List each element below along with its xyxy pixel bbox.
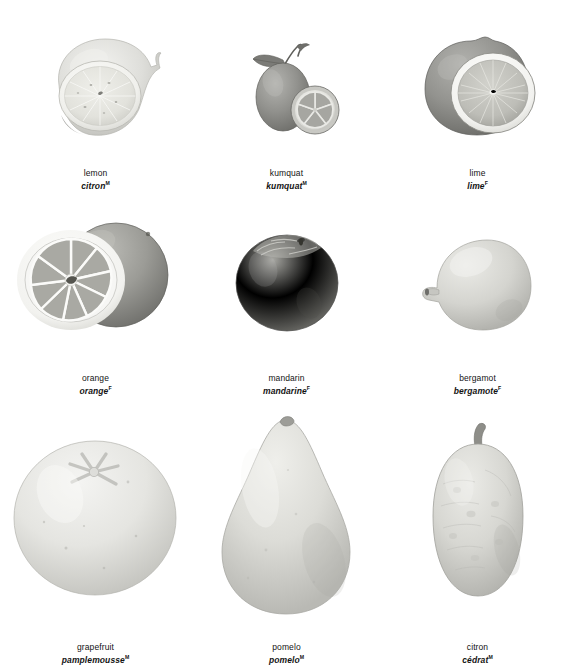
caption-kumquat-en: kumquat	[266, 168, 306, 179]
orange-illustration	[0, 193, 191, 369]
fruit-cell-orange: orange orangeF	[0, 193, 191, 398]
gender-marker: F	[498, 385, 501, 391]
gender-marker: F	[307, 385, 310, 391]
caption-citron-fr: cédratM	[462, 654, 492, 665]
caption-lemon: lemon citronM	[81, 164, 110, 191]
gender-marker: F	[108, 385, 111, 391]
fruit-cell-bergamot: bergamot bergamoteF	[382, 193, 573, 398]
orange-cut-half	[17, 230, 125, 330]
gender-marker: F	[485, 180, 488, 186]
caption-bergamot-fr: bergamoteF	[454, 385, 502, 396]
grapefruit-whole-shape	[14, 441, 176, 595]
citron-whole-shape	[433, 444, 525, 596]
caption-lime: lime limeF	[467, 164, 488, 191]
caption-orange-en: orange	[79, 373, 111, 384]
fruit-cell-grapefruit: grapefruit pamplemousseM	[0, 398, 191, 667]
bergamot-protrusion	[425, 289, 439, 296]
mandarin-illustration	[191, 193, 382, 369]
caption-lemon-fr: citronM	[81, 180, 110, 191]
grapefruit-illustration	[0, 398, 191, 638]
gender-marker: M	[105, 180, 109, 186]
pomelo-illustration	[191, 398, 382, 638]
lime-illustration	[382, 8, 573, 164]
caption-mandarin-en: mandarin	[263, 373, 310, 384]
caption-kumquat-fr: kumquatM	[266, 180, 306, 191]
caption-lime-fr: limeF	[467, 180, 488, 191]
caption-orange-fr: orangeF	[79, 385, 111, 396]
caption-kumquat: kumquat kumquatM	[266, 164, 306, 191]
caption-citron-en: citron	[462, 642, 492, 653]
caption-orange: orange orangeF	[79, 369, 111, 396]
caption-pomelo: pomelo pomeloM	[269, 638, 304, 665]
lemon-illustration	[0, 8, 191, 164]
caption-citron: citron cédratM	[462, 638, 492, 665]
gender-marker: M	[488, 654, 492, 660]
fruit-cell-citron: citron cédratM	[382, 398, 573, 667]
fruit-cell-kumquat: kumquat kumquatM	[191, 8, 382, 193]
caption-pomelo-en: pomelo	[269, 642, 304, 653]
kumquat-cut-slice	[291, 86, 339, 134]
caption-pomelo-fr: pomeloM	[269, 654, 304, 665]
caption-lemon-en: lemon	[81, 168, 110, 179]
caption-mandarin-fr: mandarineF	[263, 385, 310, 396]
bergamot-illustration	[382, 193, 573, 369]
caption-grapefruit: grapefruit pamplemousseM	[62, 638, 129, 665]
lime-cut-half	[451, 53, 535, 133]
caption-bergamot: bergamot bergamoteF	[454, 369, 502, 396]
mandarin-whole-shape	[236, 235, 338, 331]
caption-bergamot-en: bergamot	[454, 373, 502, 384]
caption-grapefruit-en: grapefruit	[62, 642, 129, 653]
fruit-cell-lemon: lemon citronM	[0, 8, 191, 193]
pomelo-stem	[280, 417, 294, 426]
pomelo-whole-shape	[222, 417, 354, 614]
fruit-cell-mandarin: mandarin mandarineF	[191, 193, 382, 398]
gender-marker: M	[302, 180, 306, 186]
caption-grapefruit-fr: pamplemousseM	[62, 654, 129, 665]
fruit-cell-pomelo: pomelo pomeloM	[191, 398, 382, 667]
fruit-cell-lime: lime limeF	[382, 8, 573, 193]
citron-illustration	[382, 398, 573, 638]
kumquat-illustration	[191, 8, 382, 164]
caption-lime-en: lime	[467, 168, 488, 179]
caption-mandarin: mandarin mandarineF	[263, 369, 310, 396]
citron-stem	[474, 423, 485, 446]
bergamot-whole-shape	[422, 240, 530, 330]
lemon-cut-half	[59, 61, 141, 131]
gender-marker: M	[300, 654, 304, 660]
gender-marker: M	[125, 654, 129, 660]
